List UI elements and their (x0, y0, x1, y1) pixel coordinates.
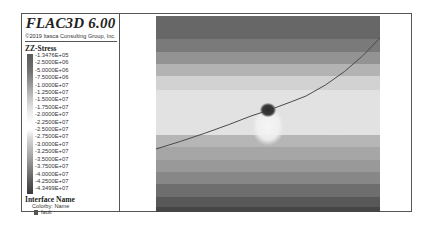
tick-label: -2.5000E+06 (35, 59, 68, 66)
legend-panel: FLAC3D 6.00 ©2019 Itasca Consulting Grou… (22, 14, 120, 211)
title-divider (25, 41, 117, 42)
tick-label: -3.2500E+07 (35, 148, 68, 155)
stress-band (156, 160, 380, 172)
tick-label: -1.3476E+05 (35, 52, 68, 59)
contour-plot (156, 16, 380, 212)
tick-label: -2.0000E+07 (35, 111, 68, 118)
figure-frame: FLAC3D 6.00 ©2019 Itasca Consulting Grou… (21, 13, 412, 212)
tick-label: -2.5000E+07 (35, 126, 68, 133)
tick-label: -4.0000E+07 (35, 171, 68, 178)
stress-band (156, 16, 380, 39)
tick-label: -1.0000E+07 (35, 82, 68, 89)
stress-band (156, 184, 380, 197)
color-bar-ticks: -1.3476E+05 -2.5000E+06 -5.0000E+06 -7.5… (35, 52, 68, 193)
tick-label: -4.2500E+07 (35, 178, 68, 185)
tick-label: -3.7500E+07 (35, 163, 68, 170)
tick-label: -2.2500E+07 (35, 119, 68, 126)
tick-label: -5.0000E+06 (35, 67, 68, 74)
tick-label: -2.7500E+07 (35, 133, 68, 140)
tick-label: -1.5000E+07 (35, 96, 68, 103)
tick-label: -7.5000E+06 (35, 74, 68, 81)
stress-band (156, 172, 380, 184)
contour-plot-canvas (156, 16, 380, 212)
stress-band (156, 207, 380, 212)
color-bar (27, 54, 33, 194)
tick-label: -4.3499E+07 (35, 185, 68, 192)
tick-label: -3.5000E+07 (35, 156, 68, 163)
app-title: FLAC3D 6.00 (22, 15, 119, 32)
tick-label: -1.7500E+07 (35, 104, 68, 111)
stress-band (156, 197, 380, 207)
stress-band (156, 147, 380, 160)
tick-label: -3.0000E+07 (35, 141, 68, 148)
tick-label: -1.2500E+07 (35, 89, 68, 96)
tunnel-icon (260, 103, 276, 117)
stress-band (156, 39, 380, 52)
copyright-text: ©2019 Itasca Consulting Group, Inc. (22, 33, 119, 39)
stress-band (156, 76, 380, 90)
stress-band (156, 52, 380, 64)
fault-swatch (34, 210, 38, 215)
fault-label: fault (41, 209, 52, 215)
